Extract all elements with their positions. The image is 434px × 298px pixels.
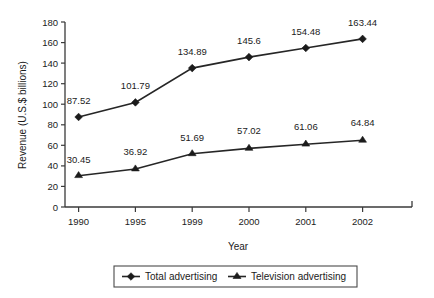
y-tick-label: 20 [47, 181, 58, 192]
x-tick-label: 2000 [238, 216, 259, 227]
y-axis-tick-labels: 180 160 140 120 100 80 60 40 20 0 [42, 17, 58, 213]
diamond-marker [245, 53, 253, 61]
data-label: 134.89 [178, 46, 207, 57]
data-label: 87.52 [67, 95, 91, 106]
y-tick-label: 120 [42, 78, 58, 89]
data-label: 145.6 [237, 35, 261, 46]
legend-label: Total advertising [145, 271, 217, 282]
series-labels-total-advertising: 87.52 101.79 134.89 145.6 154.48 163.44 [67, 17, 377, 106]
data-label: 163.44 [348, 17, 377, 28]
series-markers-total-advertising [75, 35, 367, 121]
x-tick-label: 1999 [182, 216, 203, 227]
y-tick-label: 180 [42, 17, 58, 28]
x-tick-label: 2002 [352, 216, 373, 227]
series-line-total-advertising [79, 39, 363, 117]
diamond-marker [75, 113, 83, 121]
y-tick-label: 140 [42, 58, 58, 69]
y-tick-label: 80 [47, 119, 58, 130]
y-tick-label: 40 [47, 160, 58, 171]
data-label: 61.06 [294, 121, 318, 132]
chart-legend: Total advertising Television advertising [114, 266, 357, 287]
legend-label: Television advertising [251, 271, 346, 282]
x-tick-label: 2001 [295, 216, 316, 227]
y-tick-label: 160 [42, 37, 58, 48]
x-axis-ticks [79, 207, 363, 212]
x-axis-title: Year [228, 241, 249, 252]
diamond-marker [359, 35, 367, 43]
triangle-marker [188, 150, 196, 156]
data-label: 101.79 [121, 80, 150, 91]
series-labels-television-advertising: 30.45 36.92 51.69 57.02 61.06 64.84 [67, 117, 375, 165]
revenue-line-chart: Revenue (U.S.$ billions) 180 160 140 120… [0, 0, 434, 298]
y-tick-label: 60 [47, 140, 58, 151]
data-label: 154.48 [291, 26, 320, 37]
data-label: 57.02 [237, 125, 261, 136]
data-label: 51.69 [180, 132, 204, 143]
diamond-marker [188, 64, 196, 72]
x-axis-tick-labels: 1990 1995 1999 2000 2001 2002 [68, 216, 373, 227]
y-tick-label: 0 [53, 202, 58, 213]
diamond-marker [302, 44, 310, 52]
x-tick-label: 1990 [68, 216, 89, 227]
x-tick-label: 1995 [125, 216, 146, 227]
series-line-television-advertising [79, 140, 363, 175]
triangle-marker [302, 140, 310, 146]
y-tick-label: 100 [42, 99, 58, 110]
y-axis-title: Revenue (U.S.$ billions) [17, 61, 28, 169]
data-label: 36.92 [124, 146, 148, 157]
triangle-marker [359, 136, 367, 142]
data-label: 30.45 [67, 154, 91, 165]
diamond-marker [132, 99, 140, 107]
data-label: 64.84 [351, 117, 375, 128]
chart-canvas: Revenue (U.S.$ billions) 180 160 140 120… [0, 0, 434, 298]
triangle-marker [245, 144, 253, 150]
